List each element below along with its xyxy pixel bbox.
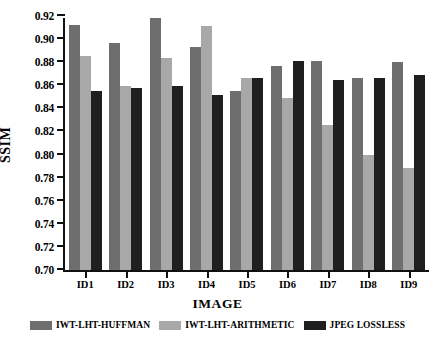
legend-label: IWT-LHT-HUFFMAN [56, 320, 150, 330]
bar-id1-series1 [80, 56, 91, 270]
plot-area: 0.700.720.740.760.780.800.820.840.860.88… [63, 18, 429, 272]
bar-id9-series2 [414, 75, 425, 270]
y-tick-mark [57, 14, 65, 16]
y-tick-label: 0.78 [35, 172, 54, 184]
x-tick-mark [166, 270, 168, 278]
bar-id2-series1 [120, 86, 131, 270]
bar-id8-series2 [374, 78, 385, 270]
x-tick-mark [85, 270, 87, 278]
y-tick-label: 0.70 [35, 264, 54, 276]
y-tick-mark [57, 199, 65, 201]
bar-group [267, 18, 307, 270]
bar-id6-series1 [282, 98, 293, 270]
bar-id1-series0 [69, 25, 80, 270]
bar-id8-series1 [363, 155, 374, 270]
bar-id7-series0 [311, 61, 322, 270]
bar-id4-series2 [212, 95, 223, 270]
x-tick-mark [247, 270, 249, 278]
y-tick-label: 0.88 [35, 56, 54, 68]
y-tick-label: 0.74 [35, 218, 54, 230]
y-tick-mark [57, 153, 65, 155]
x-tick-mark [287, 270, 289, 278]
bar-id8-series0 [352, 78, 363, 270]
x-tick-label-id9: ID9 [400, 279, 417, 290]
legend-item: JPEG LOSSLESS [304, 320, 406, 330]
bar-id4-series1 [201, 26, 212, 270]
x-tick-mark [409, 270, 411, 278]
bar-group [186, 18, 226, 270]
x-tick-label-id3: ID3 [158, 279, 175, 290]
y-tick-mark [57, 106, 65, 108]
y-tick-mark [57, 60, 65, 62]
y-tick-mark [57, 245, 65, 247]
legend-item: IWT-LHT-HUFFMAN [30, 320, 150, 330]
bar-id4-series0 [190, 47, 201, 270]
bar-group [348, 18, 388, 270]
chart-legend: IWT-LHT-HUFFMANIWT-LHT-ARITHMETICJPEG LO… [0, 320, 435, 330]
y-tick-label: 0.80 [35, 149, 54, 161]
bar-id6-series2 [293, 61, 304, 270]
bar-id3-series2 [172, 86, 183, 270]
bar-id5-series0 [230, 91, 241, 270]
x-tick-mark [207, 270, 209, 278]
bar-group [65, 18, 105, 270]
bar-id3-series0 [150, 18, 161, 270]
bar-group [308, 18, 348, 270]
bar-group [146, 18, 186, 270]
legend-swatch-icon [304, 321, 326, 330]
clipped-caption-text [60, 0, 400, 5]
x-tick-mark [368, 270, 370, 278]
bar-group [105, 18, 145, 270]
y-tick-mark [57, 129, 65, 131]
y-tick-label: 0.76 [35, 195, 54, 207]
x-tick-mark [328, 270, 330, 278]
legend-swatch-icon [30, 321, 52, 330]
bar-groups [65, 18, 429, 270]
x-tick-label-id5: ID5 [239, 279, 256, 290]
y-tick-label: 0.82 [35, 125, 54, 137]
x-axis-title: IMAGE [0, 296, 435, 312]
bar-group [389, 18, 429, 270]
y-tick-mark [57, 83, 65, 85]
bar-id2-series0 [109, 43, 120, 270]
x-tick-label-id1: ID1 [77, 279, 94, 290]
x-tick-label-id2: ID2 [117, 279, 134, 290]
y-tick-label: 0.84 [35, 102, 54, 114]
y-tick-mark [57, 37, 65, 39]
y-tick-label: 0.90 [35, 33, 54, 45]
y-tick-mark [57, 176, 65, 178]
x-tick-label-id4: ID4 [198, 279, 215, 290]
y-tick-label: 0.86 [35, 79, 54, 91]
y-tick-label: 0.72 [35, 241, 54, 253]
bar-id6-series0 [271, 66, 282, 270]
legend-label: JPEG LOSSLESS [330, 320, 406, 330]
bar-id5-series2 [252, 78, 263, 270]
bar-group [227, 18, 267, 270]
x-tick-mark [126, 270, 128, 278]
legend-swatch-icon [159, 321, 181, 330]
legend-item: IWT-LHT-ARITHMETIC [159, 320, 294, 330]
y-tick-mark [57, 222, 65, 224]
bar-id7-series1 [322, 125, 333, 270]
ssim-bar-chart-figure: SSIM 0.700.720.740.760.780.800.820.840.8… [0, 0, 435, 340]
bar-id1-series2 [91, 91, 102, 270]
bar-id9-series1 [403, 168, 414, 270]
x-tick-label-id8: ID8 [360, 279, 377, 290]
legend-label: IWT-LHT-ARITHMETIC [185, 320, 294, 330]
bar-id2-series2 [131, 88, 142, 270]
x-tick-label-id6: ID6 [279, 279, 296, 290]
bar-id5-series1 [241, 78, 252, 270]
x-tick-label-id7: ID7 [319, 279, 336, 290]
y-tick-label: 0.92 [35, 10, 54, 22]
y-axis-title: SSIM [0, 127, 14, 163]
bar-id3-series1 [161, 58, 172, 270]
bar-id7-series2 [333, 80, 344, 271]
bar-id9-series0 [392, 62, 403, 270]
y-tick-mark [57, 268, 65, 270]
